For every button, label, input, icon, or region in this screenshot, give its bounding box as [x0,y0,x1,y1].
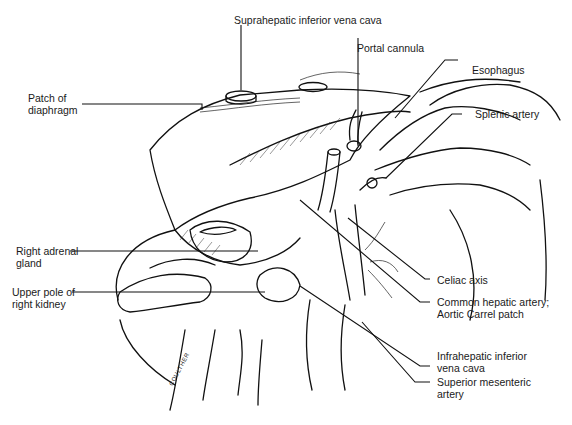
label-upper-pole-right-kidney: Upper pole of right kidney [12,286,75,310]
liver-outline [150,89,410,230]
label-celiac-axis: Celiac axis [437,274,488,286]
label-infrahepatic-ivc: Infrahepatic inferior vena cava [437,350,527,374]
label-right-adrenal-gland: Right adrenal gland [16,245,78,269]
label-superior-mesenteric-artery: Superior mesenteric artery [437,376,531,400]
label-suprahepatic-ivc: Suprahepatic inferior vena cava [234,14,382,26]
label-esophagus: Esophagus [472,64,525,76]
label-common-hepatic-artery: Common hepatic artery; Aortic Carrel pat… [437,296,549,320]
label-patch-of-diaphragm: Patch of diaphragm [28,92,78,116]
label-splenic-artery: Splenic artery [475,108,539,120]
leader-lines [70,25,462,382]
label-portal-cannula: Portal cannula [357,42,424,54]
